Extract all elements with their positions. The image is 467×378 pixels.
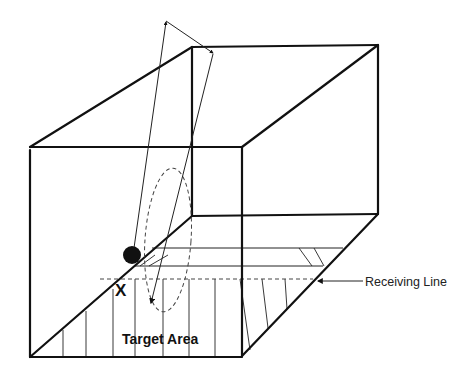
ball-icon (123, 246, 141, 264)
x-marker-label: X (115, 281, 127, 300)
court-diagram: X Target Area Receiving Line (0, 0, 467, 378)
target-area-label: Target Area (122, 331, 198, 347)
dashed-path (140, 167, 196, 314)
receiving-line-label: Receiving Line (365, 275, 447, 289)
trajectory (134, 21, 213, 303)
